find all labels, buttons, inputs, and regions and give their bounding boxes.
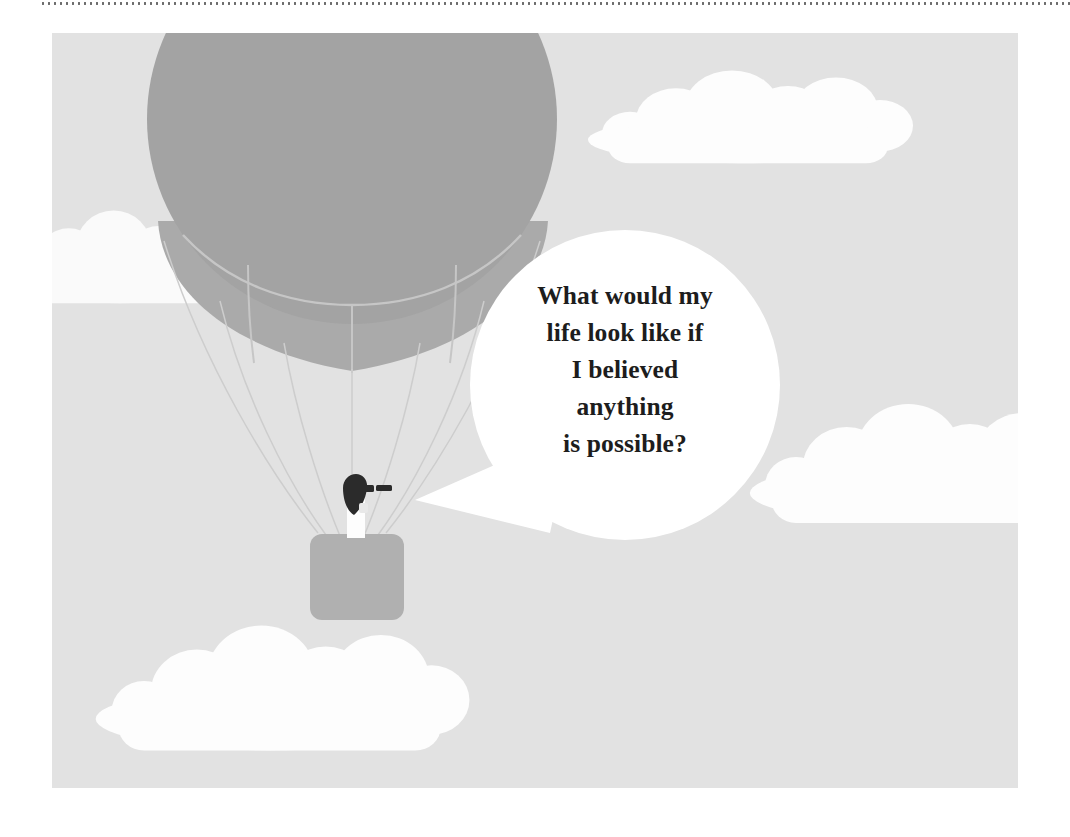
top-dotted-rule (40, 2, 1070, 5)
balloon-basket (310, 534, 404, 620)
illustration-svg (52, 33, 1018, 788)
binoculars-icon (365, 485, 374, 492)
speech-bubble-body (470, 230, 780, 540)
illustration-canvas (52, 33, 1018, 788)
